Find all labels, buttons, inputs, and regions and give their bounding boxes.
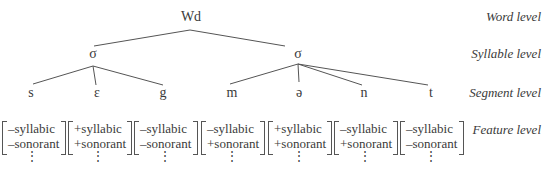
right-bracket: [193, 121, 198, 155]
syllabic-value: –syllabic: [406, 121, 462, 136]
segment-g: g: [160, 86, 167, 100]
segment-t: t: [429, 86, 433, 100]
left-bracket: [334, 121, 339, 155]
ellipsis-g: ⋮: [159, 154, 171, 159]
right-bracket: [260, 121, 265, 155]
syllable-node-1: σ: [89, 47, 97, 61]
segment-schwa: ə: [296, 86, 302, 100]
segment-n: n: [361, 86, 368, 100]
segment-level-label: Segment level: [469, 86, 541, 100]
syllabic-value: +syllabic: [74, 121, 130, 136]
syllabic-value: –syllabic: [8, 121, 64, 136]
segment-m: m: [227, 86, 238, 100]
segment-s: s: [28, 86, 33, 100]
left-bracket: [68, 121, 73, 155]
ellipsis-epsilon: ⋮: [92, 154, 104, 159]
right-bracket: [393, 121, 398, 155]
syllabic-value: –syllabic: [207, 121, 263, 136]
ellipsis-n: ⋮: [359, 154, 371, 159]
right-bracket: [127, 121, 132, 155]
ellipsis-t: ⋮: [425, 154, 437, 159]
feature-level-label: Feature level: [473, 123, 541, 137]
left-bracket: [268, 121, 273, 155]
left-bracket: [201, 121, 206, 155]
right-bracket: [61, 121, 66, 155]
syllable-level-label: Syllable level: [471, 47, 541, 61]
left-bracket: [400, 121, 405, 155]
right-bracket: [459, 121, 464, 155]
right-bracket: [327, 121, 332, 155]
syllabic-value: –syllabic: [140, 121, 196, 136]
ellipsis-m: ⋮: [226, 154, 238, 159]
ellipsis-s: ⋮: [26, 154, 38, 159]
ellipsis-schwa: ⋮: [293, 154, 305, 159]
left-bracket: [134, 121, 139, 155]
syllable-node-2: σ: [294, 47, 302, 61]
segment-epsilon: ɛ: [94, 86, 100, 100]
word-level-label: Word level: [486, 10, 541, 24]
syllabic-value: +syllabic: [274, 121, 330, 136]
syllabic-value: –syllabic: [340, 121, 396, 136]
word-node: Wd: [181, 10, 201, 24]
left-bracket: [2, 121, 7, 155]
